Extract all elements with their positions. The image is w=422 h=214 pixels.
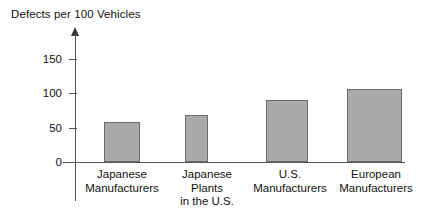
category-label-european-manufacturers: European Manufacturers xyxy=(332,168,420,195)
bar-japanese-plants-in-the-us xyxy=(185,115,208,162)
category-label-japanese-plants-in-the-us: Japanese Plants in the U.S. xyxy=(166,168,248,209)
category-label-japanese-manufacturers: Japanese Manufacturers xyxy=(78,168,166,195)
bar-us-manufacturers xyxy=(266,100,308,162)
bar-japanese-manufacturers xyxy=(104,122,140,162)
category-label-us-manufacturers: U.S. Manufacturers xyxy=(248,168,332,195)
bar-european-manufacturers xyxy=(347,89,402,162)
plot-area: Japanese Manufacturers Japanese Plants i… xyxy=(0,0,422,214)
bar-chart-figure: Defects per 100 Vehicles 0 50 100 150 Ja… xyxy=(0,0,422,214)
